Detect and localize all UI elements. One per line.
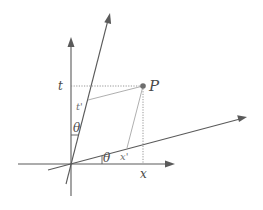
t-axis-arrow-icon <box>68 37 75 47</box>
theta-x-label: θ <box>103 151 111 165</box>
point-p-marker <box>140 83 146 89</box>
t-prime-projection-line <box>88 86 143 100</box>
x-axis <box>18 161 175 168</box>
t-axis-label: t <box>58 79 63 93</box>
t-prime-axis-arrow-icon <box>104 13 111 24</box>
x-axis-label: x <box>140 167 147 181</box>
x-prime-label: x' <box>120 151 128 162</box>
x-axis-arrow-icon <box>165 161 175 168</box>
x-prime-axis-arrow-icon <box>237 115 247 122</box>
theta-t-label: θ <box>73 121 81 135</box>
point-p-label: P <box>148 77 160 95</box>
t-prime-label: t' <box>76 101 83 112</box>
coordinate-diagram: P t x t' x' θ θ <box>0 0 263 210</box>
x-prime-projection-line <box>127 86 143 148</box>
